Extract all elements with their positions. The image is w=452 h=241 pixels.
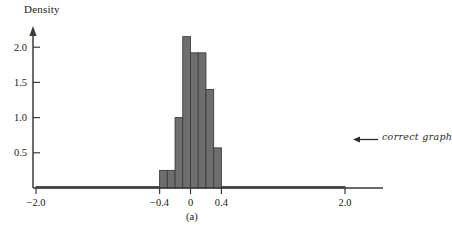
histogram-bar [183, 37, 191, 188]
histogram-bar [198, 53, 206, 188]
histogram-bar [167, 170, 175, 188]
histogram-bar [191, 53, 199, 188]
histogram-bar [214, 148, 222, 188]
histogram-bars [36, 37, 345, 188]
histogram-bar [175, 118, 183, 188]
x-tick-label: −0.4 [150, 197, 170, 208]
y-tick-label: 0.5 [14, 147, 27, 158]
x-tick-label: 0 [188, 197, 193, 208]
x-tick-label: 0.4 [215, 197, 229, 208]
y-tick-label: 1.0 [14, 112, 27, 123]
histogram-bar [206, 89, 214, 188]
histogram-bar [160, 170, 168, 188]
y-tick-label: 1.5 [14, 77, 27, 88]
x-tick-label: 2.0 [338, 197, 351, 208]
x-tick-label: −2.0 [26, 197, 45, 208]
y-tick-label: 2.0 [14, 42, 27, 53]
left-arrow-icon [353, 137, 378, 143]
